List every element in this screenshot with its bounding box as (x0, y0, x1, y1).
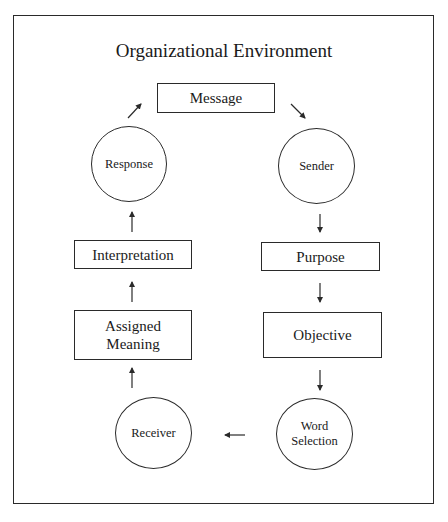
arrow-response-to-message (128, 104, 141, 118)
arrow-message-to-sender (291, 104, 305, 118)
flow-arrows (0, 0, 448, 522)
